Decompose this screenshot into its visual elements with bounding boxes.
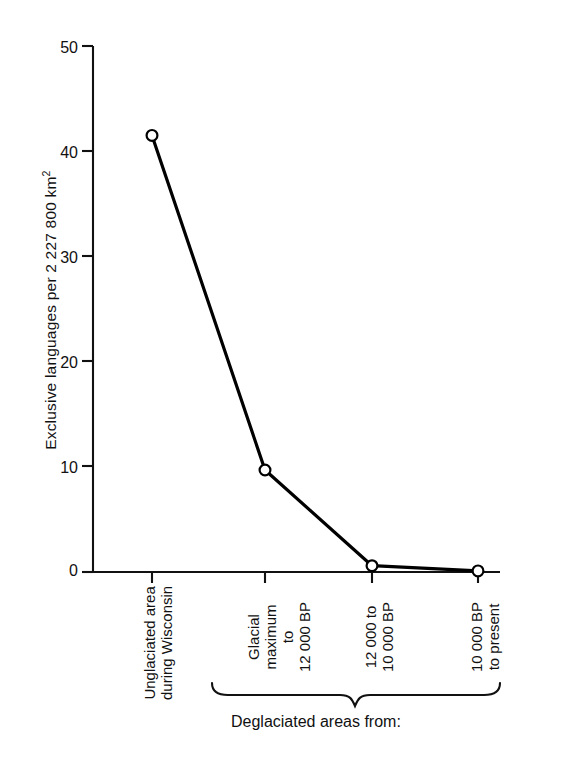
xtick-label-line: maximum xyxy=(262,602,279,672)
xtick-label-line: 10 000 BP xyxy=(468,602,485,672)
xtick-label-line: Glacial xyxy=(245,602,262,672)
xtick-label-glacial-maximum: Glacial maximum to 12 000 BP xyxy=(245,602,313,672)
data-point-marker-1 xyxy=(147,130,158,141)
data-point-marker-3 xyxy=(367,560,378,571)
xtick-label-10000-bp-to-present: 10 000 BP to present xyxy=(468,602,502,672)
xtick-label-line: 12 000 to xyxy=(362,602,379,672)
xtick-label-12000-to-10000-bp: 12 000 to 10 000 BP xyxy=(362,602,396,672)
xtick-label-unglaciated-area: Unglaciated area during Wisconsin xyxy=(141,586,175,700)
chart-figure: Exclusive languages per 2 227 800 km2 50… xyxy=(0,0,564,771)
xtick-label-line: to xyxy=(279,602,296,672)
xtick-label-line: 10 000 BP xyxy=(379,602,396,672)
xtick-label-line: 12 000 BP xyxy=(296,602,313,672)
xtick-label-line: Unglaciated area xyxy=(141,586,158,700)
data-point-marker-4 xyxy=(473,566,484,577)
group-brace xyxy=(212,683,500,706)
group-brace-caption: Deglaciated areas from: xyxy=(231,713,401,731)
data-series-line xyxy=(152,135,478,571)
xtick-label-line: during Wisconsin xyxy=(158,586,175,700)
data-point-marker-2 xyxy=(260,465,271,476)
xtick-label-line: to present xyxy=(485,602,502,672)
